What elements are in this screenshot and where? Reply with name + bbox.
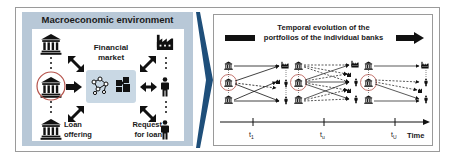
- tick-label-tU: tU: [391, 131, 397, 140]
- highlight-circle: [36, 71, 66, 101]
- vertical-ellipsis: [49, 100, 53, 118]
- right-arrow-icon: [66, 81, 82, 93]
- portfolio-snapshot-tu: [292, 58, 362, 108]
- temporal-evolution-title: Temporal evolution of the portfolios of …: [246, 23, 401, 42]
- double-arrow-icon: [140, 56, 156, 72]
- puzzle-icon: [116, 77, 131, 92]
- transition-chevron: [196, 12, 213, 148]
- network-icon: [90, 76, 110, 96]
- portfolio-snapshot-tU: [362, 58, 432, 108]
- forward-arrow-icon: [396, 32, 424, 44]
- request-for-loan-label: Request for loan: [122, 120, 162, 140]
- timeline-axis: [220, 115, 430, 129]
- loan-offering-label: Loan offering: [64, 120, 100, 140]
- bank-icon: [40, 33, 62, 55]
- time-axis-label: Time: [407, 131, 424, 140]
- bank-icon: [40, 118, 62, 140]
- portfolio-snapshot-t1: [222, 58, 292, 108]
- vertical-ellipsis: [164, 100, 168, 118]
- tick-label-t1: t1: [249, 131, 254, 140]
- double-arrow-icon: [68, 56, 84, 72]
- double-horizontal-arrow-icon: [140, 82, 157, 92]
- factory-icon: [156, 33, 174, 51]
- financial-market-label: Financial market: [86, 43, 136, 63]
- person-icon: [160, 77, 170, 97]
- tick-label-tu: tu: [320, 131, 325, 140]
- panel-title: Macroeconomic environment: [22, 14, 193, 25]
- timeline-bar: [225, 35, 255, 41]
- vertical-ellipsis: [164, 56, 168, 74]
